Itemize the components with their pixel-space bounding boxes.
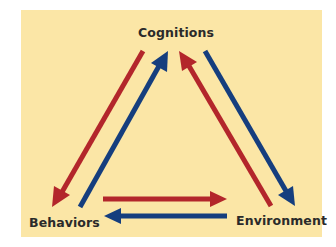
arrow-behaviors-to-environment	[103, 191, 227, 207]
arrow-behaviors-to-cognitions	[80, 51, 168, 207]
arrow-cognitions-to-environment	[205, 51, 295, 206]
node-cognitions-label: Cognitions	[138, 25, 214, 40]
arrow-environment-to-cognitions	[179, 51, 271, 206]
node-environment-label: Environment	[236, 213, 327, 228]
arrow-cognitions-to-behaviors	[52, 51, 143, 207]
node-behaviors-label: Behaviors	[29, 215, 100, 230]
arrow-environment-to-behaviors	[104, 208, 227, 224]
